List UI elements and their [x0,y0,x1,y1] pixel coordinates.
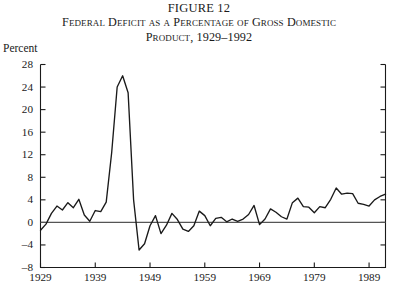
x-axis-tick-label: 1979 [294,272,334,283]
y-axis-tick-label: 28 [5,59,33,70]
axis-ticks [41,65,386,268]
x-axis-tick-label: 1959 [185,272,225,283]
x-axis-tick-label: 1989 [349,272,389,283]
y-axis-tick-label: 8 [5,172,33,183]
y-axis-tick-label: 20 [5,104,33,115]
y-axis-tick-label: 24 [5,82,33,93]
x-axis-tick-label: 1949 [130,272,170,283]
y-axis-tick-label: 0 [5,217,33,228]
x-axis-tick-label: 1929 [21,272,61,283]
plot-frame [41,65,386,268]
y-axis-tick-label: 4 [5,194,33,205]
figure-container: FIGURE 12 Federal Deficit as a Percentag… [0,0,398,294]
y-axis-tick-label: 16 [5,127,33,138]
y-axis-tick-label: 12 [5,149,33,160]
x-axis-tick-label: 1969 [240,272,280,283]
y-axis-tick-label: –4 [5,239,33,250]
x-axis-tick-label: 1939 [75,272,115,283]
chart-svg [0,0,398,294]
data-series-line [41,76,386,250]
plot-area: 2824201612840–4–819291939194919591969197… [0,0,398,294]
